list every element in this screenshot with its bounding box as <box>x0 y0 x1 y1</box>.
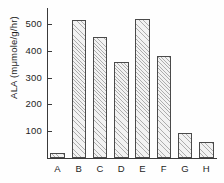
x-axis-line <box>47 158 217 159</box>
x-axis-label-c: C <box>90 163 111 174</box>
y-axis-tick-mark <box>48 78 52 79</box>
bar-h <box>199 142 214 158</box>
y-axis-line <box>47 8 48 159</box>
y-axis-tick-mark <box>48 131 52 132</box>
x-axis-label-b: B <box>68 163 89 174</box>
y-axis-tick-label: 400 <box>26 45 42 56</box>
y-axis-tick-label: 500 <box>26 18 42 29</box>
y-axis-tick-label: 300 <box>26 72 42 83</box>
y-axis-tick-mark <box>48 24 52 25</box>
bar-c <box>93 37 108 158</box>
bar-d <box>114 62 129 158</box>
plot-area: 100200300400500 ABCDEFGH <box>47 8 217 159</box>
bar-chart: ALA (mμmole/g/hr) 100200300400500 ABCDEF… <box>0 0 224 183</box>
y-axis-tick-label: 200 <box>26 98 42 109</box>
x-axis-label-g: G <box>175 163 196 174</box>
bar-b <box>72 20 87 158</box>
y-axis-tick-label: 100 <box>26 125 42 136</box>
x-axis-label-f: F <box>153 163 174 174</box>
y-axis-tick-mark <box>48 104 52 105</box>
y-axis-tick-mark <box>48 51 52 52</box>
x-axis-label-h: H <box>196 163 217 174</box>
y-axis-title: ALA (mμmole/g/hr) <box>8 0 19 123</box>
x-axis-label-e: E <box>132 163 153 174</box>
x-axis-label-d: D <box>111 163 132 174</box>
x-axis-label-a: A <box>47 163 68 174</box>
bar-a <box>50 153 65 158</box>
bar-e <box>135 19 150 158</box>
bar-f <box>157 56 172 158</box>
bar-g <box>178 133 193 158</box>
